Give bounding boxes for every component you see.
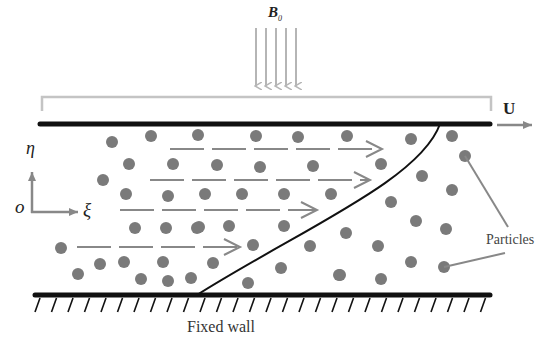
- particle: [167, 158, 179, 170]
- particle: [278, 220, 290, 232]
- particle: [278, 188, 290, 200]
- particle: [129, 222, 141, 234]
- particle: [416, 170, 428, 182]
- hatch-mark: [167, 298, 172, 312]
- particle: [254, 161, 266, 173]
- particle: [123, 158, 135, 170]
- velocity-label: U: [503, 99, 515, 119]
- dashed-velocity-arrow: [120, 202, 317, 218]
- magnetic-field-symbol: B: [268, 4, 278, 20]
- hatch-mark: [266, 298, 271, 312]
- hatch-mark: [481, 298, 486, 312]
- particle: [292, 131, 304, 143]
- particle: [242, 277, 254, 289]
- hatch-mark: [151, 298, 156, 312]
- hatch-mark: [85, 298, 90, 312]
- dashed-velocity-arrow: [77, 239, 240, 255]
- hatch-mark: [250, 298, 255, 312]
- particles-leader-lower: [444, 253, 505, 267]
- particle: [94, 258, 106, 270]
- particle: [185, 272, 197, 284]
- particle: [405, 133, 417, 145]
- hatch-mark: [101, 298, 106, 312]
- hatch-mark: [464, 298, 469, 312]
- particle: [275, 262, 287, 274]
- dashed-velocity-arrow: [150, 172, 370, 188]
- hatch-mark: [52, 298, 57, 312]
- hatch-mark: [365, 298, 370, 312]
- hatch-mark: [332, 298, 337, 312]
- magnetic-field-subscript: 0: [278, 14, 282, 23]
- magnetic-field-arrows: [256, 28, 296, 86]
- particles-label: Particles: [486, 232, 534, 248]
- hatch-mark: [448, 298, 453, 312]
- particle: [211, 159, 223, 171]
- particle: [207, 257, 219, 269]
- xi-axis-label: ξ: [83, 199, 91, 221]
- hatch-mark: [299, 298, 304, 312]
- particle: [405, 256, 417, 268]
- particle: [385, 196, 397, 208]
- hatch-mark: [415, 298, 420, 312]
- particles-leader-upper: [465, 156, 508, 227]
- eta-axis-label: η: [26, 138, 35, 159]
- hatch-mark: [68, 298, 73, 312]
- particle: [160, 222, 172, 234]
- particle: [135, 273, 147, 285]
- particle: [325, 188, 337, 200]
- couette-flow-diagram: [0, 0, 550, 354]
- particle: [55, 242, 67, 254]
- particle: [304, 240, 316, 252]
- particle: [97, 174, 109, 186]
- wall-hatching: [35, 298, 486, 312]
- particle: [440, 223, 452, 235]
- hatch-mark: [233, 298, 238, 312]
- particle: [162, 190, 174, 202]
- hatch-mark: [283, 298, 288, 312]
- particle: [307, 160, 319, 172]
- particle: [247, 239, 259, 251]
- particle: [199, 188, 211, 200]
- particle: [236, 188, 248, 200]
- hatch-mark: [217, 298, 222, 312]
- hatch-mark: [134, 298, 139, 312]
- particle: [223, 220, 235, 232]
- particle: [341, 130, 353, 142]
- hatch-mark: [382, 298, 387, 312]
- particle: [446, 130, 458, 142]
- hatch-mark: [349, 298, 354, 312]
- magnetic-field-label: B0: [268, 4, 282, 23]
- particle: [375, 158, 387, 170]
- particle: [250, 130, 262, 142]
- particle: [120, 188, 132, 200]
- particle: [162, 275, 174, 287]
- hatch-mark: [431, 298, 436, 312]
- particle: [372, 240, 384, 252]
- particle: [375, 273, 387, 285]
- origin-label: o: [15, 196, 25, 218]
- particle: [106, 136, 118, 148]
- hatch-mark: [184, 298, 189, 312]
- hatch-mark: [316, 298, 321, 312]
- particle: [145, 130, 157, 142]
- hatch-mark: [35, 298, 40, 312]
- hatch-mark: [118, 298, 123, 312]
- top-bracket: [42, 97, 491, 111]
- particle: [333, 269, 345, 281]
- particle: [446, 184, 458, 196]
- particle: [410, 215, 422, 227]
- hatch-mark: [398, 298, 403, 312]
- dashed-velocity-arrow: [170, 141, 382, 157]
- particle: [72, 268, 84, 280]
- particle: [192, 129, 204, 141]
- particle: [118, 256, 130, 268]
- particle: [340, 227, 352, 239]
- particle: [193, 221, 205, 233]
- hatch-mark: [200, 298, 205, 312]
- fixed-wall-label: Fixed wall: [187, 318, 255, 336]
- particle: [157, 256, 169, 268]
